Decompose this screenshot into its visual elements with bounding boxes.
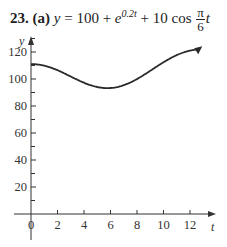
- y-tick-label: 80: [15, 99, 28, 113]
- y-tick-label: 60: [15, 126, 28, 140]
- x-tick-label: 12: [184, 218, 197, 232]
- x-axis-arrow-icon: [208, 211, 216, 217]
- y-tick-label: 100: [8, 72, 27, 86]
- y-tick-label: 120: [8, 45, 27, 59]
- x-axis-label: t: [211, 220, 215, 234]
- x-tick-label: 10: [157, 218, 170, 232]
- y-tick-label: 20: [15, 180, 28, 194]
- x-tick-label: 0: [28, 218, 34, 232]
- data-curve: [31, 49, 199, 88]
- x-tick-label: 8: [134, 218, 140, 232]
- y-axis-arrow-icon: [28, 36, 34, 45]
- x-tick-label: 2: [54, 218, 60, 232]
- x-tick-label: 4: [81, 218, 88, 232]
- x-tick-label: 6: [107, 218, 113, 232]
- y-tick-label: 40: [15, 153, 28, 167]
- line-chart: yt02468101220406080100120: [0, 0, 227, 247]
